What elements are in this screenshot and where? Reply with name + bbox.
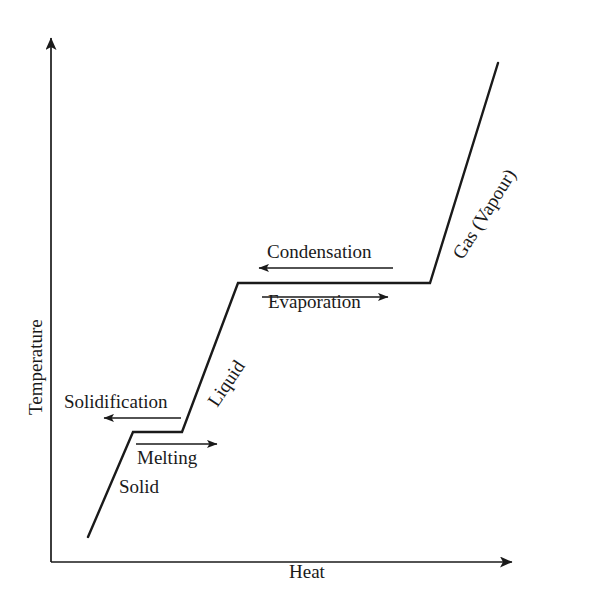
evaporation-label: Evaporation: [268, 292, 361, 311]
y-axis-title: Temperature: [26, 319, 45, 415]
solidification-label: Solidification: [64, 392, 167, 411]
heating-curve-figure: Temperature Heat Solid Liquid Gas (Vapou…: [0, 0, 593, 607]
melting-label: Melting: [137, 448, 197, 467]
condensation-label: Condensation: [267, 242, 372, 261]
solid-phase-label: Solid: [119, 477, 159, 496]
x-axis-title: Heat: [289, 562, 325, 581]
